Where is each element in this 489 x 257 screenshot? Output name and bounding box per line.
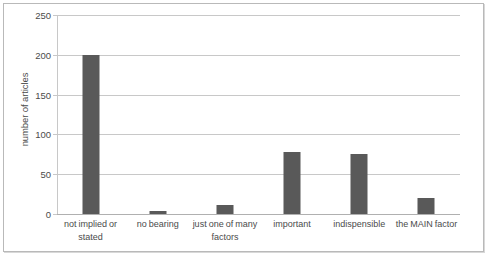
y-tick-label: 250 xyxy=(35,10,51,21)
bar xyxy=(149,211,166,214)
x-tick-label: indispensible xyxy=(322,218,397,231)
x-tick-label: no bearing xyxy=(120,218,195,231)
bar-slot xyxy=(124,15,191,214)
x-tick-label: just one of many factors xyxy=(187,218,262,243)
bar-slot xyxy=(57,15,124,214)
plot-area: 050100150200250 xyxy=(57,15,460,214)
chart-screenshot: number of articles 050100150200250 not i… xyxy=(0,0,489,257)
y-tick-mark xyxy=(53,214,57,215)
bar-slot xyxy=(191,15,258,214)
bar-series xyxy=(57,15,460,214)
y-tick-label: 150 xyxy=(35,89,51,100)
bar-slot xyxy=(326,15,393,214)
y-tick-label: 200 xyxy=(35,49,51,60)
bar-slot xyxy=(259,15,326,214)
bar xyxy=(216,205,233,214)
x-tick-label: not implied or stated xyxy=(53,218,128,243)
gridline xyxy=(57,214,460,215)
bar-chart: number of articles 050100150200250 not i… xyxy=(4,4,483,251)
bar xyxy=(351,154,368,214)
y-tick-label: 0 xyxy=(46,209,51,220)
bar xyxy=(82,55,99,214)
bar-slot xyxy=(393,15,460,214)
x-tick-label: the MAIN factor xyxy=(389,218,464,231)
y-tick-label: 100 xyxy=(35,129,51,140)
x-tick-label: important xyxy=(255,218,330,231)
y-axis-title: number of articles xyxy=(19,30,30,190)
x-axis-labels: not implied or statedno bearingjust one … xyxy=(57,218,460,252)
bar xyxy=(284,152,301,214)
bar xyxy=(418,198,435,214)
y-tick-label: 50 xyxy=(40,169,51,180)
